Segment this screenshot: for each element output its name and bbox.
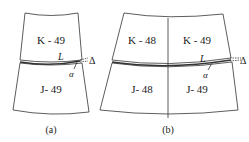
gap-dashes-a [80,58,88,62]
alpha-pointer-b [208,63,212,70]
label-L-b: L [199,53,206,64]
label-alpha-b: α [203,70,208,80]
panel-a-shapes [13,13,89,114]
label-j48-b: J- 48 [131,83,153,95]
label-k49-b: K - 49 [183,34,212,46]
caption-a: (a) [45,124,56,136]
alpha-pointer-a [74,62,77,69]
caption-b: (b) [162,124,174,136]
label-k48-b: K - 48 [128,34,157,46]
panel-b-shapes [100,13,241,118]
map-sheet-diagram: K - 49 J- 49 L α Δ (a) K - 48 K - 49 J- … [0,0,249,142]
label-j49-b: J- 49 [186,83,208,95]
sheet-j-bottom-b [100,62,238,114]
label-j49-a: J- 49 [40,83,62,95]
label-delta-a: Δ [89,55,96,66]
label-k49-a: K - 49 [37,34,66,46]
label-alpha-a: α [69,69,74,79]
label-delta-b: Δ [240,55,247,66]
label-L-a: L [57,51,64,62]
